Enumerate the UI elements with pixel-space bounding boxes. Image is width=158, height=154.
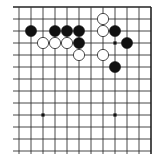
- black-stone: [121, 37, 132, 48]
- black-stone: [109, 61, 120, 72]
- white-stone: [97, 25, 108, 36]
- white-stone: [37, 37, 48, 48]
- white-stone: [97, 13, 108, 24]
- white-stone: [49, 37, 60, 48]
- star-point: [113, 41, 116, 44]
- white-stone: [61, 37, 72, 48]
- go-board: [0, 0, 158, 154]
- star-point: [113, 113, 116, 116]
- black-stone: [61, 25, 72, 36]
- black-stone: [49, 25, 60, 36]
- black-stone: [25, 25, 36, 36]
- white-stone: [97, 49, 108, 60]
- star-point: [41, 113, 44, 116]
- white-stone: [73, 49, 84, 60]
- black-stone: [109, 25, 120, 36]
- black-stone: [73, 37, 84, 48]
- black-stone: [73, 25, 84, 36]
